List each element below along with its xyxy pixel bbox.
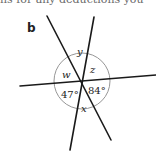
angle-w: w [62, 69, 71, 80]
angle-y: y [76, 46, 83, 57]
angle-84: 84° [88, 85, 106, 96]
angle-z: z [89, 64, 96, 75]
lines [20, 16, 156, 150]
line-1 [47, 16, 111, 140]
line-2 [70, 17, 94, 150]
angle-x: x [81, 103, 87, 114]
angle-47: 47° [61, 89, 79, 100]
angle-diagram: y z w 47° 84° x [0, 0, 156, 153]
